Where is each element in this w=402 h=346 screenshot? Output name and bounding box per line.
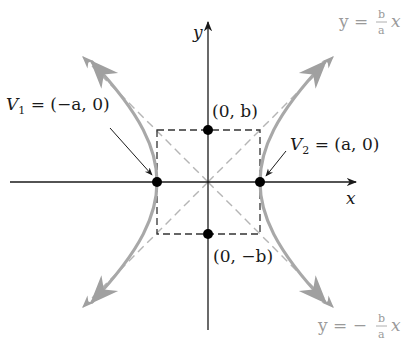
asymptote-positive-rhs: x <box>391 11 401 31</box>
asymptote-negative-den: a <box>378 328 385 341</box>
asymptote-positive-lower <box>83 182 208 307</box>
vertex-v1-point <box>152 177 162 187</box>
covertex-bottom-point <box>203 229 213 239</box>
asymptote-positive-lhs: y = <box>338 11 368 31</box>
covertex-top-label: (0, b) <box>212 101 258 121</box>
covertex-bottom-label: (0, −b) <box>213 246 273 266</box>
asymptote-positive-den: a <box>378 24 385 37</box>
x-axis-label: x <box>346 188 356 208</box>
vertex-v1-label: V1 = (−a, 0) <box>6 94 110 117</box>
v1-coords: = (−a, 0) <box>25 94 109 114</box>
asymptote-positive-equation: y = b a x <box>338 8 401 37</box>
asymptote-negative-lhs: y = − <box>317 315 367 335</box>
right-branch-upper <box>260 62 325 182</box>
covertex-top-point <box>203 125 213 135</box>
v2-coords: = (a, 0) <box>309 134 379 154</box>
asymptote-negative <box>83 57 208 182</box>
asymptote-positive-num: b <box>378 8 385 21</box>
hyperbola-diagram: y x V1 = (−a, 0) V2 = (a, 0) (0, b) (0, … <box>0 0 402 346</box>
v1-subscript: 1 <box>18 104 25 117</box>
asymptote-negative-num: b <box>378 312 385 325</box>
vertex-v2-point <box>255 177 265 187</box>
y-axis-label: y <box>192 22 203 42</box>
v2-pointer-arrow <box>266 151 286 176</box>
asymptote-negative-rhs: x <box>391 315 401 335</box>
right-branch-lower <box>260 182 325 302</box>
v2-subscript: 2 <box>302 144 309 157</box>
asymptote-negative-equation: y = − b a x <box>317 312 401 341</box>
vertex-v2-label: V2 = (a, 0) <box>290 134 379 157</box>
